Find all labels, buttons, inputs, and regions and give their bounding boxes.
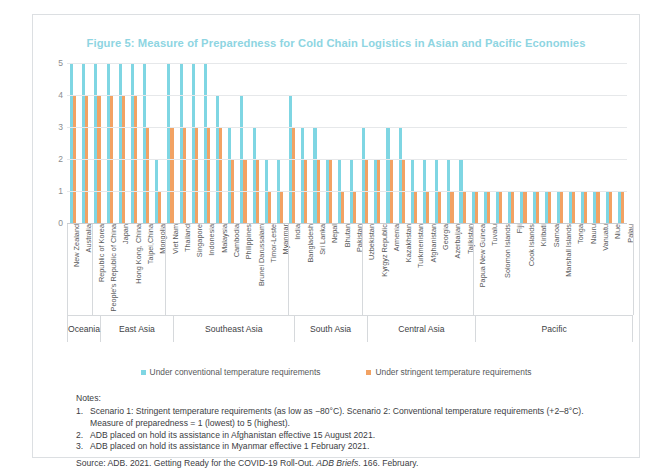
bar-stringent[interactable] — [609, 191, 612, 223]
bar-group[interactable] — [335, 63, 347, 223]
x-axis-tick-label: Pakistan — [350, 224, 362, 316]
bar-stringent[interactable] — [426, 191, 429, 223]
bar-stringent[interactable] — [292, 127, 295, 223]
note-number: 3. — [76, 441, 86, 453]
legend-item-conventional[interactable]: Under conventional temperature requireme… — [141, 367, 321, 377]
x-axis-tick-label: Cambodia — [227, 224, 239, 316]
bar-group[interactable] — [177, 63, 189, 223]
bar-group[interactable] — [383, 63, 395, 223]
x-axis-tick-label: Tajikistan — [461, 224, 473, 316]
region-separator — [92, 224, 93, 315]
region-band: OceaniaEast AsiaSoutheast AsiaSouth Asia… — [67, 315, 633, 342]
bar-stringent[interactable] — [195, 127, 198, 223]
x-axis-tick-label: Nauru — [583, 224, 595, 316]
bar-group[interactable] — [189, 63, 201, 223]
bar-group[interactable] — [347, 63, 359, 223]
bar-stringent[interactable] — [548, 191, 551, 223]
bar-group[interactable] — [530, 63, 542, 223]
bar-group[interactable] — [67, 63, 79, 223]
x-axis-tick-label: Sri Lanka — [313, 224, 325, 316]
bar-stringent[interactable] — [621, 191, 624, 223]
bar-group[interactable] — [542, 63, 554, 223]
bar-group[interactable] — [323, 63, 335, 223]
bar-group[interactable] — [286, 63, 298, 223]
bar-group[interactable] — [91, 63, 103, 223]
bar-stringent[interactable] — [511, 191, 514, 223]
bar-group[interactable] — [396, 63, 408, 223]
bar-group[interactable] — [481, 63, 493, 223]
bar-group[interactable] — [505, 63, 517, 223]
bar-group[interactable] — [493, 63, 505, 223]
bar-group[interactable] — [250, 63, 262, 223]
bar-group[interactable] — [590, 63, 602, 223]
bar-stringent[interactable] — [353, 191, 356, 223]
bar-group[interactable] — [274, 63, 286, 223]
x-axis-tick-label: Solomon Islands — [497, 224, 509, 316]
bar-group[interactable] — [615, 63, 627, 223]
bar-group[interactable] — [578, 63, 590, 223]
bar-group[interactable] — [420, 63, 432, 223]
bar-stringent[interactable] — [560, 191, 563, 223]
bar-group[interactable] — [152, 63, 164, 223]
bar-group[interactable] — [554, 63, 566, 223]
bar-group[interactable] — [201, 63, 213, 223]
bar-stringent[interactable] — [596, 191, 599, 223]
bar-group[interactable] — [603, 63, 615, 223]
bar-group[interactable] — [225, 63, 237, 223]
bar-stringent[interactable] — [572, 191, 575, 223]
bar-group[interactable] — [566, 63, 578, 223]
region-separator — [165, 224, 166, 315]
bar-stringent[interactable] — [158, 191, 161, 223]
y-axis-tick-label: 2 — [58, 155, 63, 164]
bar-stringent[interactable] — [183, 127, 186, 223]
bar-group[interactable] — [298, 63, 310, 223]
bar-group[interactable] — [457, 63, 469, 223]
bar-stringent[interactable] — [487, 191, 490, 223]
note-text: Scenario 1: Stringent temperature requir… — [90, 406, 666, 418]
bar-group[interactable] — [213, 63, 225, 223]
bar-stringent[interactable] — [463, 191, 466, 223]
bar-group[interactable] — [359, 63, 371, 223]
bar-group[interactable] — [164, 63, 176, 223]
bar-group[interactable] — [469, 63, 481, 223]
legend-item-stringent[interactable]: Under stringent temperature requirements — [366, 367, 531, 377]
bar-group[interactable] — [432, 63, 444, 223]
bar-stringent[interactable] — [450, 191, 453, 223]
bar-group[interactable] — [128, 63, 140, 223]
chart-plot-area: 012345 — [47, 63, 627, 238]
bar-group[interactable] — [237, 63, 249, 223]
bar-group[interactable] — [444, 63, 456, 223]
bar-group[interactable] — [79, 63, 91, 223]
bar-stringent[interactable] — [341, 191, 344, 223]
region-separator — [633, 224, 634, 315]
bar-stringent[interactable] — [219, 127, 222, 223]
bar-group[interactable] — [116, 63, 128, 223]
bar-stringent[interactable] — [499, 191, 502, 223]
bar-stringent[interactable] — [438, 191, 441, 223]
bar-stringent[interactable] — [207, 127, 210, 223]
bar-stringent[interactable] — [414, 191, 417, 223]
bar-group[interactable] — [408, 63, 420, 223]
bar-group[interactable] — [310, 63, 322, 223]
bar-stringent[interactable] — [475, 191, 478, 223]
bar-group[interactable] — [371, 63, 383, 223]
bar-stringent[interactable] — [170, 127, 173, 223]
x-axis-tick-label: Viet Nam — [165, 224, 177, 316]
bar-stringent[interactable] — [523, 191, 526, 223]
source-line: Source: ADB. 2021. Getting Ready for the… — [76, 458, 666, 470]
bar-group[interactable] — [140, 63, 152, 223]
bar-group[interactable] — [517, 63, 529, 223]
x-axis-tick-label: Vanuatu — [596, 224, 608, 316]
x-axis-tick-label: Bhutan — [338, 224, 350, 316]
bar-stringent[interactable] — [584, 191, 587, 223]
bar-stringent[interactable] — [280, 191, 283, 223]
bar-group[interactable] — [104, 63, 116, 223]
bar-stringent[interactable] — [146, 127, 149, 223]
x-axis-tick-label: New Zealand — [67, 224, 79, 316]
bar-stringent[interactable] — [536, 191, 539, 223]
bar-group[interactable] — [262, 63, 274, 223]
x-axis-tick-label: Georgia — [436, 224, 448, 316]
x-axis-tick-label: Uzbekistan — [362, 224, 374, 316]
bar-stringent[interactable] — [268, 191, 271, 223]
x-axis-tick-label: Kazakhstan — [399, 224, 411, 316]
